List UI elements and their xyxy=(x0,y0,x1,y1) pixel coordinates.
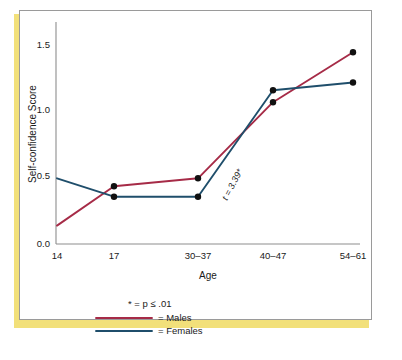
series-line-males xyxy=(57,52,353,225)
legend-label-males: = Males xyxy=(158,312,192,323)
x-tick-label-14: 14 xyxy=(52,250,63,261)
x-tick-label-17: 17 xyxy=(109,250,120,261)
series-line-females xyxy=(57,83,353,197)
annotation-t-value: t = 3.39* xyxy=(220,167,245,202)
data-point-females-1-3 xyxy=(270,87,276,93)
data-point-females-1-2 xyxy=(195,194,201,200)
data-point-females-1-1 xyxy=(111,194,117,200)
line-chart: 1.5 1.0 0.5 0.0 Self-confidence Score 14… xyxy=(0,0,402,360)
x-tick-label-54-61: 54–61 xyxy=(340,250,366,261)
data-point-males-0-2 xyxy=(195,175,201,181)
y-tick-label-0.5: 0.5 xyxy=(37,170,50,181)
legend-significance-note: * = p ≤ .01 xyxy=(128,298,172,309)
data-point-males-0-4 xyxy=(350,49,356,55)
series-layer xyxy=(57,49,356,226)
data-point-males-0-3 xyxy=(270,99,276,105)
x-tick-label-40-47: 40–47 xyxy=(260,250,286,261)
y-tick-label-1.0: 1.0 xyxy=(37,104,50,115)
data-point-males-0-1 xyxy=(111,183,117,189)
data-point-females-1-4 xyxy=(350,79,356,85)
y-axis-title: Self-confidence Score xyxy=(27,85,38,183)
figure-container: 1.5 1.0 0.5 0.0 Self-confidence Score 14… xyxy=(0,0,402,360)
x-tick-label-30-37: 30–37 xyxy=(185,250,211,261)
y-tick-label-0.0: 0.0 xyxy=(37,238,50,249)
y-tick-label-1.5: 1.5 xyxy=(37,39,50,50)
x-axis-title: Age xyxy=(199,270,217,281)
legend-label-females: = Females xyxy=(158,325,203,336)
